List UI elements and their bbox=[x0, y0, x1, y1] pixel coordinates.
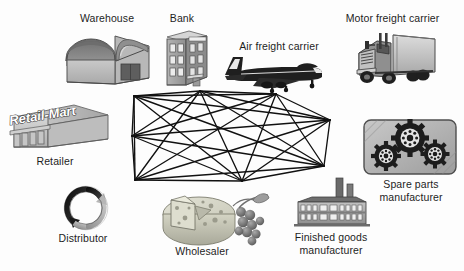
warehouse-icon bbox=[57, 26, 157, 88]
mesh-edge bbox=[200, 91, 330, 120]
label-retailer: Retailer bbox=[10, 155, 100, 167]
mesh-edge bbox=[276, 94, 324, 166]
retail-mart-sign-text: Retail-Mart bbox=[8, 108, 77, 128]
bank-building-icon bbox=[163, 27, 211, 89]
label-motor-freight-carrier: Motor freight carrier bbox=[330, 12, 455, 24]
cheese-and-grapes-icon bbox=[155, 186, 270, 248]
label-air-freight-carrier: Air freight carrier bbox=[224, 40, 334, 52]
label-distributor: Distributor bbox=[38, 232, 128, 244]
retail-mart-sign: Retail-Mart bbox=[8, 108, 92, 134]
gears-plate-icon bbox=[362, 118, 458, 176]
mesh-edge bbox=[242, 120, 330, 181]
label-line-1: Spare parts bbox=[383, 178, 438, 190]
mesh-edge bbox=[135, 94, 276, 180]
supply-chain-mesh-network bbox=[126, 88, 336, 186]
mesh-edge bbox=[134, 96, 330, 120]
label-spare-parts-manufacturer: Spare parts manufacturer bbox=[360, 178, 462, 203]
label-line-2: manufacturer bbox=[379, 191, 442, 203]
label-wholesaler: Wholesaler bbox=[152, 245, 252, 257]
circular-arrows-icon bbox=[60, 184, 112, 232]
mesh-edge bbox=[132, 91, 200, 136]
mesh-edges bbox=[132, 91, 330, 181]
mesh-edge bbox=[132, 136, 242, 181]
mesh-edge bbox=[135, 180, 242, 181]
label-finished-goods-manufacturer: Finished goods manufacturer bbox=[275, 231, 387, 256]
mesh-edge bbox=[242, 166, 324, 181]
label-bank: Bank bbox=[152, 12, 212, 24]
supply-chain-diagram: Warehouse bbox=[0, 0, 464, 271]
label-warehouse: Warehouse bbox=[62, 12, 152, 24]
mesh-edge bbox=[324, 120, 330, 166]
mesh-edge bbox=[135, 166, 324, 180]
label-line-2: manufacturer bbox=[299, 244, 362, 256]
label-line-1: Finished goods bbox=[295, 231, 368, 243]
mesh-edge bbox=[135, 120, 330, 180]
truck-icon bbox=[349, 27, 445, 89]
